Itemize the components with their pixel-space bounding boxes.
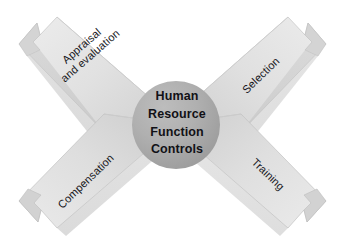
- diagram-canvas: [0, 0, 345, 246]
- hr-function-controls-diagram: Human Resource Function Controls Apprais…: [0, 0, 345, 246]
- center-hub-circle: [132, 81, 220, 169]
